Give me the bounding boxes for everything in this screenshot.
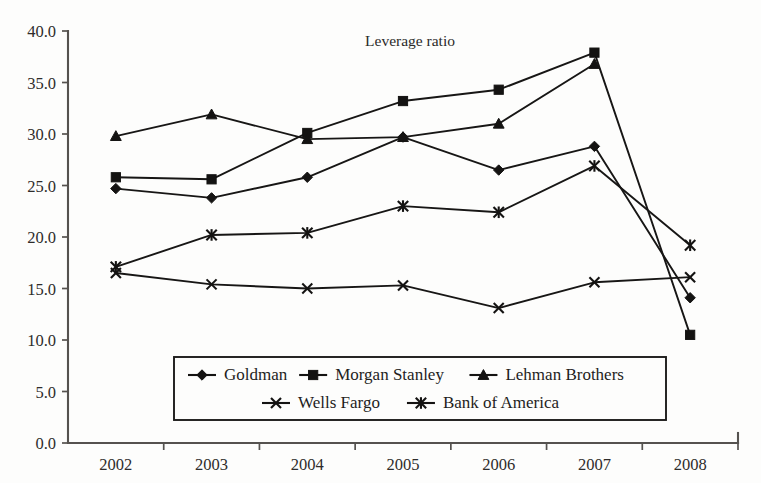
y-tick-label: 5.0	[35, 383, 56, 402]
data-point-marker	[207, 175, 216, 184]
series-line-bank-of-america	[116, 166, 690, 267]
data-point-marker	[494, 85, 503, 94]
x-tick-label: 2006	[482, 455, 515, 474]
y-tick-label: 25.0	[27, 177, 56, 196]
x-tick-label: 2002	[99, 455, 132, 474]
legend-item-bank-of-america[interactable]: Bank of America	[407, 393, 560, 412]
series-line-lehman-brothers	[116, 64, 595, 139]
y-tick-label: 30.0	[27, 125, 56, 144]
x-tick-label: 2007	[578, 455, 611, 474]
data-point-marker	[111, 173, 120, 182]
legend-label: Morgan Stanley	[335, 365, 444, 384]
series-line-wells-fargo	[116, 273, 690, 308]
data-point-marker	[111, 183, 121, 193]
x-axis-tick-labels: 2002 2003 2004 2005 2006 2007 2008	[99, 455, 706, 474]
legend-label: Goldman	[224, 365, 288, 384]
data-point-marker	[302, 172, 312, 182]
data-point-marker	[686, 330, 695, 339]
x-tick-label: 2005	[387, 455, 420, 474]
legend-label: Wells Fargo	[298, 393, 380, 412]
data-point-marker	[206, 109, 217, 119]
data-point-marker	[589, 160, 599, 172]
data-point-marker	[494, 165, 504, 175]
data-point-marker	[206, 193, 216, 203]
chart-title: Leverage ratio	[365, 32, 455, 49]
data-point-marker	[309, 370, 318, 379]
chart-axes	[62, 31, 738, 450]
y-tick-label: 0.0	[35, 434, 56, 453]
data-point-marker	[398, 96, 407, 105]
series-line-goldman	[116, 137, 690, 298]
y-tick-label: 10.0	[27, 331, 56, 350]
data-point-marker	[685, 293, 695, 303]
series-line-morgan-stanley	[116, 53, 690, 335]
x-tick-label: 2008	[674, 455, 707, 474]
chart-canvas: 40.0 35.0 30.0 25.0 20.0 15.0 10.0 5.0 0…	[0, 0, 761, 483]
data-point-marker	[589, 141, 599, 151]
legend-item-lehman-brothers[interactable]: Lehman Brothers	[469, 365, 624, 384]
chart-legend: GoldmanMorgan StanleyLehman BrothersWell…	[174, 357, 666, 420]
data-point-marker	[197, 370, 207, 380]
data-series-layer	[110, 48, 695, 339]
data-point-marker	[493, 118, 504, 128]
y-axis-tick-labels: 40.0 35.0 30.0 25.0 20.0 15.0 10.0 5.0 0…	[27, 22, 56, 453]
y-tick-label: 35.0	[27, 74, 56, 93]
data-point-marker	[111, 261, 121, 273]
leverage-ratio-chart: 40.0 35.0 30.0 25.0 20.0 15.0 10.0 5.0 0…	[0, 0, 761, 483]
legend-item-goldman[interactable]: Goldman	[188, 365, 288, 384]
y-tick-label: 15.0	[27, 280, 56, 299]
data-point-marker	[685, 239, 695, 251]
x-tick-label: 2003	[195, 455, 228, 474]
legend-label: Lehman Brothers	[505, 365, 624, 384]
y-tick-label: 40.0	[27, 22, 56, 41]
y-tick-label: 20.0	[27, 228, 56, 247]
legend-item-wells-fargo[interactable]: Wells Fargo	[262, 393, 380, 412]
legend-item-morgan-stanley[interactable]: Morgan Stanley	[299, 365, 444, 384]
legend-label: Bank of America	[443, 393, 560, 412]
data-point-marker	[590, 48, 599, 57]
x-tick-label: 2004	[291, 455, 324, 474]
